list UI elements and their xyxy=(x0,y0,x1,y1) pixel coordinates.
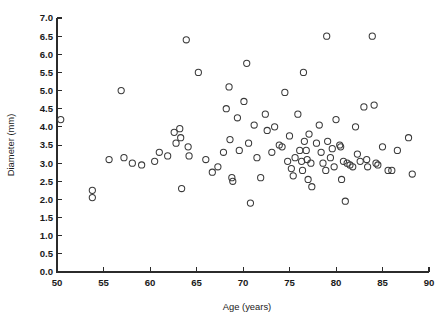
x-tick-label: 70 xyxy=(238,277,249,288)
data-points xyxy=(58,33,416,206)
data-point-marker xyxy=(58,117,64,123)
data-point-marker xyxy=(305,176,311,182)
data-point-marker xyxy=(364,156,370,162)
y-tick-label: 3.5 xyxy=(40,139,54,150)
data-point-marker xyxy=(209,169,215,175)
data-point-marker xyxy=(405,135,411,141)
data-point-marker xyxy=(245,140,251,146)
data-point-marker xyxy=(301,138,307,144)
y-tick-label: 4.5 xyxy=(40,103,54,114)
data-point-marker xyxy=(215,164,221,170)
data-point-marker xyxy=(320,160,326,166)
y-tick-label: 2.5 xyxy=(40,176,54,187)
data-point-marker xyxy=(290,173,296,179)
data-point-marker xyxy=(226,84,232,90)
data-point-marker xyxy=(129,160,135,166)
x-tick-label: 75 xyxy=(284,277,295,288)
data-point-marker xyxy=(340,158,346,164)
data-point-marker xyxy=(338,176,344,182)
data-point-marker xyxy=(352,124,358,130)
data-point-marker xyxy=(299,167,305,173)
x-tick-label: 85 xyxy=(377,277,388,288)
data-point-marker xyxy=(309,184,315,190)
data-point-marker xyxy=(333,117,339,123)
y-axis-label: Diameter (mm) xyxy=(5,114,16,177)
data-point-marker xyxy=(186,153,192,159)
data-point-marker xyxy=(234,115,240,121)
data-point-marker xyxy=(300,69,306,75)
data-point-marker xyxy=(318,149,324,155)
x-tick-label: 50 xyxy=(52,277,63,288)
y-tick-label: 1.0 xyxy=(40,230,53,241)
data-point-marker xyxy=(272,124,278,130)
axes xyxy=(57,18,429,272)
x-tick-label: 60 xyxy=(145,277,156,288)
data-point-marker xyxy=(369,33,375,39)
data-point-marker xyxy=(165,153,171,159)
data-point-marker xyxy=(179,185,185,191)
data-point-marker xyxy=(357,158,363,164)
data-point-marker xyxy=(269,149,275,155)
x-axis-label: Age (years) xyxy=(223,301,271,312)
data-point-marker xyxy=(327,155,333,161)
data-point-marker xyxy=(303,147,309,153)
data-point-marker xyxy=(244,60,250,66)
plot-canvas: 0.00.51.01.52.02.53.03.54.04.55.05.56.06… xyxy=(0,0,437,318)
data-point-marker xyxy=(230,178,236,184)
axis-ticks xyxy=(57,18,429,272)
data-point-marker xyxy=(394,147,400,153)
y-tick-label: 2.0 xyxy=(40,194,53,205)
axis-tick-labels: 0.00.51.01.52.02.53.03.54.04.55.05.56.06… xyxy=(40,12,435,288)
data-point-marker xyxy=(313,140,319,146)
y-tick-label: 0.0 xyxy=(40,266,53,277)
data-point-marker xyxy=(297,147,303,153)
data-point-marker xyxy=(329,146,335,152)
data-point-marker xyxy=(203,156,209,162)
data-point-marker xyxy=(331,164,337,170)
data-point-marker xyxy=(227,136,233,142)
data-point-marker xyxy=(379,144,385,150)
data-point-marker xyxy=(285,158,291,164)
data-point-marker xyxy=(286,133,292,139)
data-point-marker xyxy=(89,187,95,193)
x-tick-label: 55 xyxy=(98,277,109,288)
data-point-marker xyxy=(295,111,301,117)
data-point-marker xyxy=(304,156,310,162)
scatter-plot-figure: 0.00.51.01.52.02.53.03.54.04.55.05.56.06… xyxy=(0,0,437,318)
data-point-marker xyxy=(139,162,145,168)
data-point-marker xyxy=(185,144,191,150)
x-tick-label: 80 xyxy=(331,277,342,288)
data-point-marker xyxy=(308,160,314,166)
data-point-marker xyxy=(118,87,124,93)
data-point-marker xyxy=(264,127,270,133)
x-tick-label: 90 xyxy=(424,277,435,288)
data-point-marker xyxy=(292,155,298,161)
data-point-marker xyxy=(325,138,331,144)
data-point-marker xyxy=(247,200,253,206)
data-point-marker xyxy=(173,140,179,146)
y-tick-label: 5.5 xyxy=(40,67,54,78)
data-point-marker xyxy=(254,155,260,161)
data-point-marker xyxy=(365,164,371,170)
data-point-marker xyxy=(258,175,264,181)
data-point-marker xyxy=(220,149,226,155)
x-tick-label: 65 xyxy=(191,277,202,288)
data-point-marker xyxy=(389,167,395,173)
data-point-marker xyxy=(171,129,177,135)
y-tick-label: 7.0 xyxy=(40,12,53,23)
data-point-marker xyxy=(354,151,360,157)
data-point-marker xyxy=(223,106,229,112)
y-tick-label: 3.0 xyxy=(40,158,53,169)
y-tick-label: 6.0 xyxy=(40,49,53,60)
data-point-marker xyxy=(288,165,294,171)
data-point-marker xyxy=(183,37,189,43)
data-point-marker xyxy=(241,98,247,104)
data-point-marker xyxy=(409,171,415,177)
data-point-marker xyxy=(177,126,183,132)
data-point-marker xyxy=(324,33,330,39)
data-point-marker xyxy=(195,69,201,75)
data-point-marker xyxy=(156,149,162,155)
data-point-marker xyxy=(371,102,377,108)
data-point-marker xyxy=(121,155,127,161)
data-point-marker xyxy=(262,111,268,117)
